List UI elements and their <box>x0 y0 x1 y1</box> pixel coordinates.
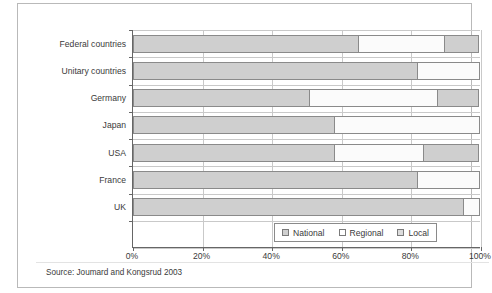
bar-segment-regional <box>358 35 445 53</box>
bar-segment-regional <box>463 198 480 216</box>
y-axis-label: France <box>22 175 126 185</box>
y-axis-label: Japan <box>22 120 126 130</box>
y-axis-tick <box>129 221 133 222</box>
plot-area <box>132 30 480 248</box>
x-axis-tick-label: 80% <box>402 251 419 261</box>
y-axis-label: Germany <box>22 93 126 103</box>
y-axis-label: Unitary countries <box>22 66 126 76</box>
bar-row <box>133 198 481 216</box>
legend-swatch-icon <box>397 229 404 236</box>
legend-swatch-icon <box>339 229 346 236</box>
legend-item: Regional <box>339 228 384 238</box>
band-separator <box>133 248 480 249</box>
band-separator <box>133 57 480 58</box>
bar-row <box>133 89 481 107</box>
bar-segment-regional <box>334 144 424 162</box>
bar-row <box>133 116 481 134</box>
bar-row <box>133 171 481 189</box>
x-axis-tick-label: 100% <box>469 251 491 261</box>
bar-row <box>133 62 481 80</box>
bar-segment-national <box>133 198 464 216</box>
bar-row <box>133 35 481 53</box>
bar-segment-local <box>437 89 479 107</box>
legend-label: National <box>293 228 325 238</box>
legend-label: Regional <box>350 228 384 238</box>
legend-swatch-icon <box>282 229 289 236</box>
band-separator <box>133 221 480 222</box>
x-axis-tick-label: 60% <box>332 251 349 261</box>
legend-item: National <box>282 228 325 238</box>
y-axis-label: UK <box>22 202 126 212</box>
source-divider <box>36 262 489 263</box>
band-separator <box>133 166 480 167</box>
legend-label: Local <box>408 228 429 238</box>
y-axis-tick <box>129 139 133 140</box>
bar-segment-local <box>444 35 479 53</box>
bar-segment-regional <box>417 62 480 80</box>
band-separator <box>133 85 480 86</box>
x-axis-tick-label: 20% <box>193 251 210 261</box>
y-axis-tick <box>129 30 133 31</box>
band-separator <box>133 194 480 195</box>
bar-segment-national <box>133 89 310 107</box>
gridline <box>481 30 482 247</box>
bar-segment-regional <box>309 89 438 107</box>
source-note: Source: Joumard and Kongsrud 2003 <box>46 268 182 277</box>
bar-segment-national <box>133 35 359 53</box>
bar-segment-national <box>133 171 418 189</box>
y-axis-label: USA <box>22 148 126 158</box>
bar-segment-national <box>133 116 335 134</box>
y-axis-tick <box>129 194 133 195</box>
bar-row <box>133 144 481 162</box>
x-axis-tick-label: 0% <box>126 251 138 261</box>
figure-page: Federal countriesUnitary countriesGerman… <box>0 0 492 293</box>
y-axis-tick <box>129 57 133 58</box>
y-axis-tick <box>129 85 133 86</box>
y-axis-label: Federal countries <box>22 39 126 49</box>
legend-item: Local <box>397 228 429 238</box>
band-separator <box>133 112 480 113</box>
bar-segment-regional <box>334 116 480 134</box>
bar-segment-national <box>133 62 418 80</box>
bar-segment-regional <box>417 171 480 189</box>
y-axis-labels: Federal countriesUnitary countriesGerman… <box>18 30 126 248</box>
chart-legend: NationalRegionalLocal <box>274 223 437 242</box>
figure-frame: Federal countriesUnitary countriesGerman… <box>17 3 472 288</box>
y-axis-tick <box>129 166 133 167</box>
bar-segment-national <box>133 144 335 162</box>
band-separator <box>133 30 480 31</box>
band-separator <box>133 139 480 140</box>
x-axis-tick-label: 40% <box>263 251 280 261</box>
bar-segment-local <box>423 144 479 162</box>
y-axis-tick <box>129 112 133 113</box>
